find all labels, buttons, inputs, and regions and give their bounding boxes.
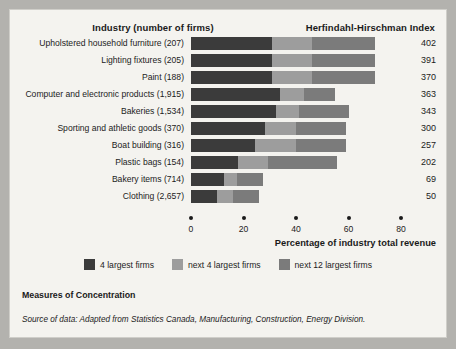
axis-tick-dot: [399, 216, 403, 220]
legend-item: next 4 largest firms: [172, 259, 261, 270]
hhi-value: 391: [390, 55, 436, 65]
chart-row: Lighting fixtures (205)391: [10, 53, 446, 70]
industry-label: Boat building (316): [10, 140, 184, 150]
x-axis-title: Percentage of industry total revenue: [190, 238, 436, 248]
chart-panel: Industry (number of firms) Herfindahl-Hi…: [10, 10, 446, 337]
stacked-bar: [191, 54, 401, 67]
legend-swatch-icon: [279, 259, 290, 270]
hhi-value: 300: [390, 123, 436, 133]
measures-of-concentration-label: Measures of Concentration: [22, 290, 135, 300]
hhi-value: 402: [390, 38, 436, 48]
stacked-bar: [191, 139, 401, 152]
bar-segment-2: [272, 37, 311, 50]
bar-segment-2: [255, 139, 296, 152]
axis-tick-label: 40: [281, 224, 311, 234]
bar-segment-2: [224, 173, 237, 186]
industry-label: Sporting and athletic goods (370): [10, 123, 184, 133]
industry-label: Clothing (2,657): [10, 191, 184, 201]
industry-label: Bakery items (714): [10, 174, 184, 184]
axis-tick-label: 20: [229, 224, 259, 234]
chart-row: Sporting and athletic goods (370)300: [10, 121, 446, 138]
chart-row: Clothing (2,657)50: [10, 189, 446, 206]
figure-container: Industry (number of firms) Herfindahl-Hi…: [0, 0, 456, 349]
industry-label: Lighting fixtures (205): [10, 55, 184, 65]
legend-swatch-icon: [84, 259, 95, 270]
bar-segment-1: [191, 139, 255, 152]
bar-segment-2: [217, 190, 233, 203]
industry-column-header: Industry (number of firms): [58, 22, 248, 33]
bar-segment-3: [237, 173, 263, 186]
chart-row: Upholstered household furniture (207)402: [10, 36, 446, 53]
legend-label: 4 largest firms: [100, 260, 154, 270]
bar-segment-2: [238, 156, 268, 169]
hhi-value: 69: [390, 174, 436, 184]
chart-row: Boat building (316)257: [10, 138, 446, 155]
bar-segment-1: [191, 105, 276, 118]
axis-tick-label: 80: [386, 224, 416, 234]
legend-swatch-icon: [172, 259, 183, 270]
stacked-bar: [191, 173, 401, 186]
stacked-bar: [191, 156, 401, 169]
industry-label: Bakeries (1,534): [10, 106, 184, 116]
bar-segment-1: [191, 122, 265, 135]
hhi-value: 343: [390, 106, 436, 116]
chart-row: Bakery items (714)69: [10, 172, 446, 189]
hhi-value: 50: [390, 191, 436, 201]
bar-segment-2: [265, 122, 297, 135]
industry-label: Computer and electronic products (1,915): [10, 89, 184, 99]
bar-segment-3: [299, 105, 349, 118]
chart-legend: 4 largest firmsnext 4 largest firmsnext …: [10, 259, 446, 270]
legend-item: 4 largest firms: [84, 259, 154, 270]
stacked-bar: [191, 190, 401, 203]
industry-label: Plastic bags (154): [10, 157, 184, 167]
legend-label: next 12 largest firms: [295, 260, 372, 270]
bar-segment-1: [191, 37, 272, 50]
chart-row: Plastic bags (154)202: [10, 155, 446, 172]
bar-segment-2: [272, 54, 311, 67]
chart-row: Bakeries (1,534)343: [10, 104, 446, 121]
bar-segment-1: [191, 156, 238, 169]
axis-tick-dot: [242, 216, 246, 220]
bar-segment-3: [304, 88, 336, 101]
axis-tick-dot: [189, 216, 193, 220]
bar-segment-2: [272, 71, 311, 84]
bar-segment-1: [191, 54, 272, 67]
stacked-bar: [191, 37, 401, 50]
bar-chart-plot-area: Upholstered household furniture (207)402…: [10, 36, 446, 218]
bar-segment-3: [296, 139, 346, 152]
source-note: Source of data: Adapted from Statistics …: [22, 315, 365, 324]
stacked-bar: [191, 105, 401, 118]
bar-segment-2: [280, 88, 304, 101]
bar-segment-1: [191, 71, 272, 84]
legend-item: next 12 largest firms: [279, 259, 372, 270]
bar-segment-3: [233, 190, 259, 203]
axis-tick-label: 0: [176, 224, 206, 234]
hhi-value: 370: [390, 72, 436, 82]
hhi-value: 363: [390, 89, 436, 99]
axis-tick-dot: [347, 216, 351, 220]
industry-label: Upholstered household furniture (207): [10, 38, 184, 48]
bar-segment-3: [268, 156, 336, 169]
bar-segment-3: [312, 71, 375, 84]
axis-tick-label: 60: [334, 224, 364, 234]
chart-row: Computer and electronic products (1,915)…: [10, 87, 446, 104]
bar-segment-2: [276, 105, 298, 118]
bar-segment-1: [191, 173, 224, 186]
stacked-bar: [191, 71, 401, 84]
bar-segment-1: [191, 190, 217, 203]
hhi-column-header: Herfindahl-Hirschman Index: [280, 22, 435, 33]
hhi-value: 202: [390, 157, 436, 167]
bar-segment-3: [312, 37, 375, 50]
bar-segment-3: [312, 54, 375, 67]
axis-tick-dot: [294, 216, 298, 220]
hhi-value: 257: [390, 140, 436, 150]
legend-label: next 4 largest firms: [188, 260, 261, 270]
bar-segment-1: [191, 88, 280, 101]
bar-segment-3: [296, 122, 346, 135]
stacked-bar: [191, 122, 401, 135]
stacked-bar: [191, 88, 401, 101]
chart-row: Paint (188)370: [10, 70, 446, 87]
industry-label: Paint (188): [10, 72, 184, 82]
